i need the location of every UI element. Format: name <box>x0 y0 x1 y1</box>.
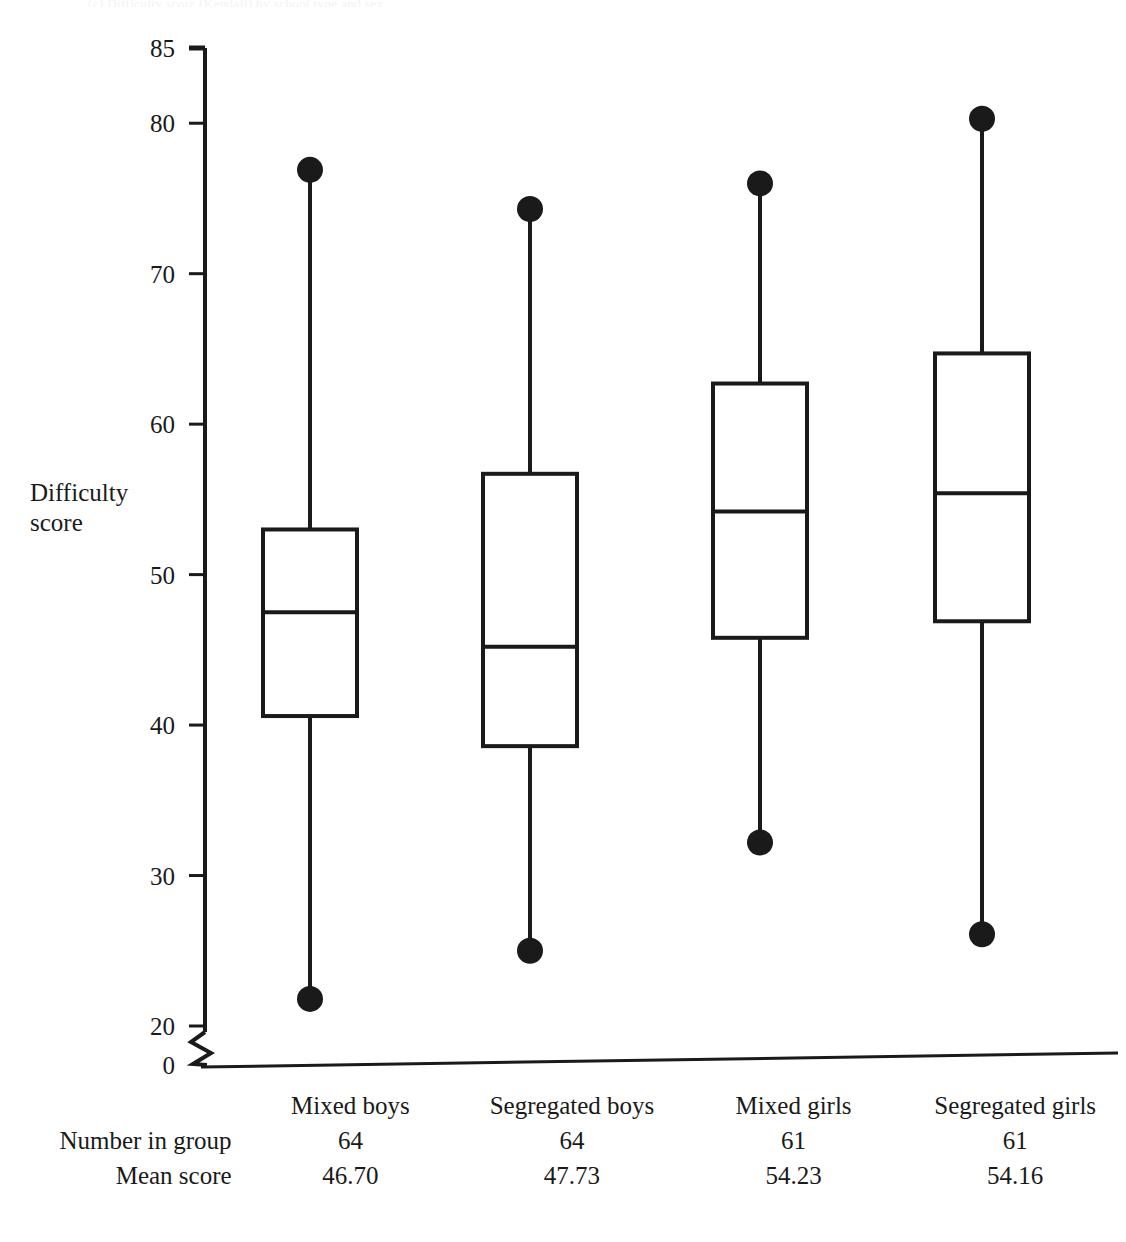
x-axis-baseline <box>201 1053 1118 1067</box>
row-label-mean-score: Mean score <box>0 1162 240 1190</box>
iqr-box <box>483 474 577 746</box>
count-2: 61 <box>683 1127 905 1155</box>
axis-break-zigzag <box>191 1032 211 1065</box>
max-marker <box>969 106 995 132</box>
y-tick-label-0: 0 <box>163 1052 176 1079</box>
count-3: 61 <box>904 1127 1126 1155</box>
y-tick-label-40: 40 <box>150 712 175 739</box>
min-marker <box>517 938 543 964</box>
y-tick-label-50: 50 <box>150 562 175 589</box>
table-row-groups: Mixed boys Segregated boys Mixed girls S… <box>0 1092 1126 1127</box>
y-tick-label-30: 30 <box>150 863 175 890</box>
max-marker <box>297 157 323 183</box>
boxplot-mixed-girls <box>713 170 807 855</box>
mean-1: 47.73 <box>461 1162 683 1190</box>
table-row-means: Mean score 46.70 47.73 54.23 54.16 <box>0 1162 1126 1197</box>
y-tick-label-85: 85 <box>150 35 175 62</box>
group-name-3: Segregated girls <box>904 1092 1126 1120</box>
group-name-2: Mixed girls <box>683 1092 905 1120</box>
group-name-0: Mixed boys <box>240 1092 462 1120</box>
max-marker <box>517 196 543 222</box>
iqr-box <box>263 529 357 716</box>
max-marker <box>747 170 773 196</box>
boxplot-segregated-girls <box>935 106 1029 948</box>
box-plot-svg: 20304050607080850 <box>0 0 1126 1092</box>
table-row-counts: Number in group 64 64 61 61 <box>0 1127 1126 1162</box>
row-label-number-in-group: Number in group <box>0 1127 240 1155</box>
min-marker <box>297 986 323 1012</box>
figure-container: (c) Difficulty score (Kendall) by school… <box>0 0 1126 1242</box>
min-marker <box>969 921 995 947</box>
iqr-box <box>935 353 1029 621</box>
count-1: 64 <box>461 1127 683 1155</box>
boxplot-segregated-boys <box>483 196 577 964</box>
count-0: 64 <box>240 1127 462 1155</box>
mean-3: 54.16 <box>904 1162 1126 1190</box>
mean-2: 54.23 <box>683 1162 905 1190</box>
summary-table: Mixed boys Segregated boys Mixed girls S… <box>0 1092 1126 1197</box>
y-tick-label-80: 80 <box>150 110 175 137</box>
boxes-group <box>263 106 1029 1012</box>
group-name-1: Segregated boys <box>461 1092 683 1120</box>
boxplot-mixed-boys <box>263 157 357 1012</box>
y-tick-label-70: 70 <box>150 261 175 288</box>
y-tick-label-20: 20 <box>150 1013 175 1040</box>
y-tick-label-60: 60 <box>150 411 175 438</box>
min-marker <box>747 829 773 855</box>
mean-0: 46.70 <box>240 1162 462 1190</box>
